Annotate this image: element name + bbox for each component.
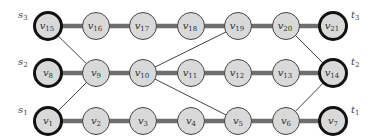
source-label-s3: s3 (18, 9, 28, 22)
sink-label-t3: t3 (351, 9, 360, 22)
node-v13: v13 (273, 60, 300, 87)
sink-label-t2: t2 (351, 56, 360, 69)
node-v16: v16 (83, 13, 110, 40)
node-v9: v9 (83, 60, 110, 87)
node-v4: v4 (178, 108, 205, 135)
source-label-s1: s1 (18, 104, 28, 117)
node-v18: v18 (178, 13, 205, 40)
node-v5: v5 (225, 108, 252, 135)
sink-label-t1: t1 (351, 104, 360, 117)
source-label-s2: s2 (18, 56, 28, 69)
node-v2: v2 (83, 108, 110, 135)
node-v6: v6 (273, 108, 300, 135)
node-v20: v20 (273, 13, 300, 40)
node-v10: v10 (130, 60, 157, 87)
node-v8: v8 (35, 60, 62, 87)
node-v19: v19 (225, 13, 252, 40)
node-v12: v12 (225, 60, 252, 87)
node-v21: v21 (320, 13, 347, 40)
node-v1: v1 (35, 108, 62, 135)
node-v3: v3 (130, 108, 157, 135)
node-v11: v11 (178, 60, 205, 87)
node-v7: v7 (320, 108, 347, 135)
node-v17: v17 (130, 13, 157, 40)
node-v14: v14 (320, 60, 347, 87)
graph-diagram: v1v2v3v4v5v6v7v8v9v10v11v12v13v14v15v16v… (0, 0, 376, 137)
node-v15: v15 (35, 13, 62, 40)
